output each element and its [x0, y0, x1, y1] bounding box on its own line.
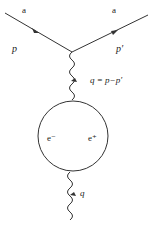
upper-photon-line — [70, 52, 75, 100]
upper-photon-label: q = p−p′ — [90, 75, 123, 85]
outgoing-particle-label: a — [112, 5, 116, 15]
incoming-momentum-label: p — [11, 43, 17, 54]
outgoing-momentum-label: p′ — [115, 43, 124, 54]
outgoing-arrow-icon — [111, 30, 118, 35]
lower-photon-label: q — [80, 188, 85, 198]
loop-right-label: e⁺ — [88, 133, 97, 143]
incoming-particle-label: a — [22, 5, 26, 15]
loop-left-label: e⁻ — [47, 133, 56, 143]
outgoing-line — [72, 15, 148, 52]
lower-photon-arrow-icon — [70, 192, 76, 196]
feynman-diagram: a p a p′ q = p−p′ e⁻ e⁺ q — [0, 0, 152, 233]
lower-photon-line — [68, 172, 73, 220]
